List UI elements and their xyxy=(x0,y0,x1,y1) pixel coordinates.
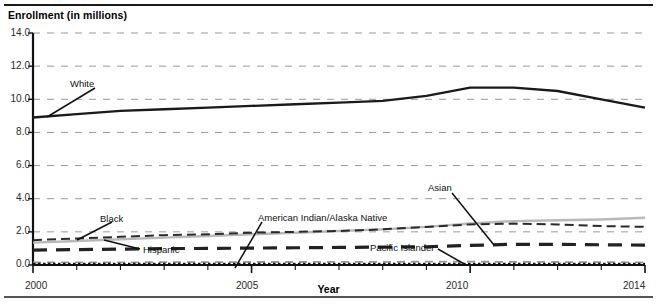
y-tick-label: 6.0 xyxy=(0,159,30,170)
chart-plot-area xyxy=(0,0,657,304)
series-label-pacific-islander: Pacific Islander xyxy=(370,242,434,253)
series-label-hispanic: Hispanic xyxy=(143,244,179,255)
y-tick-label: 12.0 xyxy=(0,60,30,71)
y-tick-label: 2.0 xyxy=(0,225,30,236)
x-tick-label: 2000 xyxy=(25,280,47,291)
y-tick-label: 0.0 xyxy=(0,258,30,269)
x-tick-label: 2014 xyxy=(623,280,645,291)
series-label-american-indian: American Indian/Alaska Native xyxy=(258,212,387,223)
series-line-white xyxy=(33,88,645,118)
y-tick-label: 14.0 xyxy=(0,27,30,38)
series-label-white: White xyxy=(70,78,94,89)
y-tick-label: 4.0 xyxy=(0,192,30,203)
leader-pacific-islander xyxy=(438,249,466,265)
x-tick-label: 2005 xyxy=(236,280,258,291)
series-line-american-indian-alaska-native xyxy=(33,262,645,263)
chart-figure: Enrollment (in millions) Year 14.0 12.0 … xyxy=(0,0,657,304)
series-label-asian: Asian xyxy=(428,182,452,193)
y-tick-label: 8.0 xyxy=(0,126,30,137)
leader-asian xyxy=(452,193,494,245)
x-tick-label: 2010 xyxy=(446,280,468,291)
x-axis-title: Year xyxy=(0,283,657,295)
leader-american-indian xyxy=(235,222,262,268)
y-tick-label: 10.0 xyxy=(0,93,30,104)
series-label-black: Black xyxy=(100,213,123,224)
